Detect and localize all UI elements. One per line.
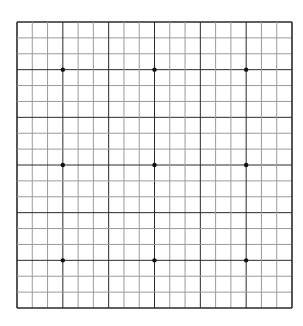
star-point-icon	[244, 258, 248, 262]
star-point-icon	[61, 163, 65, 167]
star-point-icon	[61, 67, 65, 71]
star-point-icon	[152, 67, 156, 71]
star-point-icon	[244, 163, 248, 167]
star-point-icon	[61, 258, 65, 262]
star-point-icon	[152, 163, 156, 167]
star-point-icon	[244, 67, 248, 71]
star-point-icon	[152, 258, 156, 262]
go-board[interactable]	[0, 0, 303, 326]
